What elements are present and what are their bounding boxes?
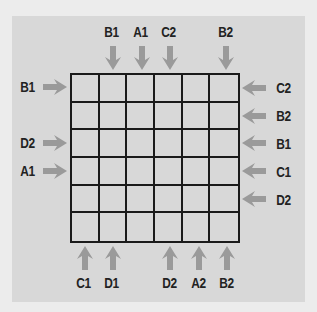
arrow-left-icon — [242, 135, 266, 151]
arrow-down-icon — [162, 46, 178, 70]
arrow-right-icon — [43, 135, 67, 151]
arrow-up-icon — [105, 246, 121, 270]
arrows-layer — [0, 0, 317, 312]
arrow-left-icon — [242, 80, 266, 96]
arrow-up-icon — [219, 246, 235, 270]
arrow-left-icon — [242, 163, 266, 179]
arrow-up-icon — [191, 246, 207, 270]
arrow-down-icon — [134, 46, 150, 70]
arrow-right-icon — [43, 79, 67, 95]
arrow-right-icon — [43, 163, 67, 179]
arrow-up-icon — [162, 246, 178, 270]
arrow-down-icon — [218, 46, 234, 70]
arrow-left-icon — [242, 108, 266, 124]
arrow-down-icon — [105, 46, 121, 70]
arrow-left-icon — [242, 191, 266, 207]
arrow-up-icon — [77, 246, 93, 270]
